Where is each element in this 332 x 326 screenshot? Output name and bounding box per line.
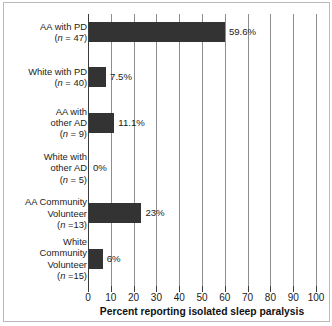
tick-label-80: 80 xyxy=(265,292,276,304)
category-label-white-with-pd: White with PD(n = 40) xyxy=(6,66,87,89)
gridline-90 xyxy=(293,14,294,286)
bar-white-with-pd xyxy=(89,67,106,87)
tick-label-70: 70 xyxy=(242,292,253,304)
gridline-50 xyxy=(202,14,203,286)
bar-aa-with-pd xyxy=(89,22,225,42)
category-label-aa-with-other-ad: AA withother AD(n = 9) xyxy=(6,106,87,140)
category-label-aa-with-pd: AA with PD(n = 47) xyxy=(6,21,87,44)
category-label-white-community-volunteer: WhiteCommunityVolunteer(n =15) xyxy=(6,236,87,282)
x-axis-title: Percent reporting isolated sleep paralys… xyxy=(88,306,316,317)
value-label-white-with-pd: 7.5% xyxy=(110,72,132,82)
gridline-60 xyxy=(225,14,226,286)
tick-label-20: 20 xyxy=(128,292,139,304)
category-label-white-with-other-ad: White withother AD(n = 5) xyxy=(6,151,87,185)
gridline-10 xyxy=(111,14,112,286)
gridline-20 xyxy=(134,14,135,286)
tick-label-100: 100 xyxy=(308,292,325,304)
tick-label-30: 30 xyxy=(151,292,162,304)
bar-aa-with-other-ad xyxy=(89,113,114,133)
value-label-aa-with-other-ad: 11.1% xyxy=(118,118,145,128)
value-label-white-with-other-ad: 0% xyxy=(93,163,107,173)
gridline-70 xyxy=(248,14,249,286)
tick-label-90: 90 xyxy=(288,292,299,304)
x-axis-tick-labels: 0102030405060708090100 xyxy=(88,292,316,304)
gridline-40 xyxy=(179,14,180,286)
value-label-white-community-volunteer: 6% xyxy=(107,254,121,264)
axis-baseline xyxy=(88,14,89,286)
gridline-80 xyxy=(270,14,271,286)
plot-area: 59.6%7.5%11.1%0%23%6% xyxy=(88,14,316,286)
tick-label-60: 60 xyxy=(219,292,230,304)
tick-label-50: 50 xyxy=(196,292,207,304)
gridline-100 xyxy=(316,14,317,286)
gridline-30 xyxy=(156,14,157,286)
category-label-aa-community-volunteer: AA CommunityVolunteer(n =13) xyxy=(6,196,87,230)
bar-chart-figure: AA with PD(n = 47)White with PD(n = 40)A… xyxy=(0,0,332,326)
tick-label-40: 40 xyxy=(174,292,185,304)
value-label-aa-community-volunteer: 23% xyxy=(145,208,164,218)
value-label-aa-with-pd: 59.6% xyxy=(229,27,256,37)
tick-label-0: 0 xyxy=(85,292,91,304)
bar-aa-community-volunteer xyxy=(89,203,141,223)
category-label-column: AA with PD(n = 47)White with PD(n = 40)A… xyxy=(6,14,87,286)
tick-label-10: 10 xyxy=(105,292,116,304)
bar-white-community-volunteer xyxy=(89,249,103,269)
